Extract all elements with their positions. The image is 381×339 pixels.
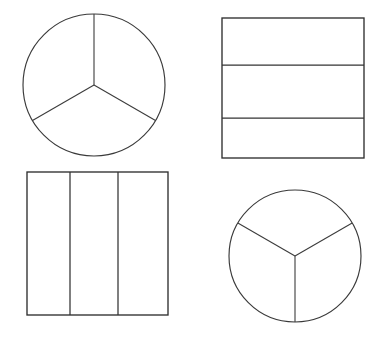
rectangle-outline: [222, 18, 364, 158]
square-outline: [27, 172, 168, 315]
shapes-figure: [0, 0, 381, 339]
shape-top-left-circle: [23, 14, 165, 156]
shape-top-right-rectangle: [222, 18, 364, 158]
shape-bottom-right-circle: [229, 190, 361, 322]
figure-canvas: [0, 0, 381, 339]
shape-bottom-left-square: [27, 172, 168, 315]
